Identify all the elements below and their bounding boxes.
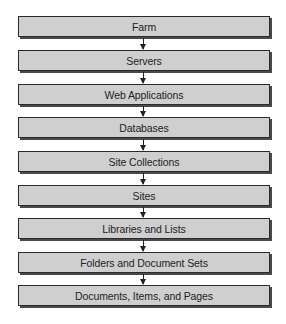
level-box-servers: Servers xyxy=(18,50,270,71)
arrow-down-icon xyxy=(143,38,144,49)
level-box-farm: Farm xyxy=(18,16,270,37)
level-box-documents-items-and-pages: Documents, Items, and Pages xyxy=(18,285,270,306)
level-box-folders-and-document-sets: Folders and Document Sets xyxy=(18,252,270,273)
level-label: Libraries and Lists xyxy=(102,223,185,235)
level-box-sites: Sites xyxy=(18,185,270,206)
level-label: Folders and Document Sets xyxy=(80,257,208,269)
arrow-down-icon xyxy=(143,106,144,116)
level-label: Servers xyxy=(126,55,161,67)
level-label: Web Applications xyxy=(105,89,184,101)
arrow-down-icon xyxy=(143,173,144,184)
level-box-databases: Databases xyxy=(18,117,270,138)
level-box-site-collections: Site Collections xyxy=(18,151,270,172)
arrow-down-icon xyxy=(143,240,144,251)
arrow-down-icon xyxy=(143,207,144,217)
level-label: Sites xyxy=(133,190,156,202)
arrow-down-icon xyxy=(143,72,144,83)
level-label: Site Collections xyxy=(109,156,180,168)
level-label: Databases xyxy=(119,122,168,134)
arrow-down-icon xyxy=(143,274,144,284)
hierarchy-diagram: Farm Servers Web Applications Databases … xyxy=(0,0,286,324)
level-box-libraries-and-lists: Libraries and Lists xyxy=(18,218,270,239)
level-box-web-applications: Web Applications xyxy=(18,84,270,105)
arrow-down-icon xyxy=(143,139,144,150)
level-label: Farm xyxy=(132,21,156,33)
level-label: Documents, Items, and Pages xyxy=(75,290,213,302)
